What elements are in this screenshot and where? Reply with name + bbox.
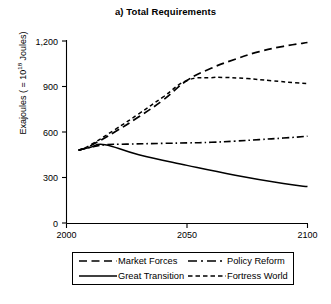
- y-tick-label-0: 0: [53, 219, 58, 229]
- legend: Market Forces Policy Reform Great Transi…: [72, 252, 294, 285]
- legend-row: Great Transition Fortress World: [73, 268, 295, 284]
- y-tick-label-900: 900: [43, 82, 58, 92]
- legend-label-policy-reform: Policy Reform: [227, 256, 285, 266]
- y-tick-label-600: 600: [43, 128, 58, 138]
- legend-label-great-transition: Great Transition: [118, 271, 184, 281]
- legend-row: Market Forces Policy Reform: [73, 253, 295, 269]
- legend-item-market-forces[interactable]: Market Forces: [73, 253, 185, 269]
- legend-label-market-forces: Market Forces: [118, 256, 177, 266]
- legend-item-fortress-world[interactable]: Fortress World: [185, 268, 295, 284]
- series-line-great-transition: [79, 144, 308, 186]
- legend-swatch-solid: [78, 271, 118, 281]
- legend-swatch-dash-dot: [187, 256, 227, 266]
- legend-swatch-long-dash: [78, 256, 118, 266]
- y-axis-ticks: [62, 41, 67, 223]
- x-axis-tick-labels: 2000 2050 2100: [56, 230, 317, 240]
- legend-item-great-transition[interactable]: Great Transition: [73, 268, 185, 284]
- legend-label-fortress-world: Fortress World: [227, 271, 288, 281]
- y-tick-label-1200: 1,200: [35, 37, 58, 47]
- legend-item-policy-reform[interactable]: Policy Reform: [185, 253, 295, 269]
- series-line-market-forces: [79, 43, 308, 151]
- legend-swatch-short-dash: [187, 271, 227, 281]
- x-tick-label-2050: 2050: [177, 230, 197, 240]
- y-tick-label-300: 300: [43, 173, 58, 183]
- x-tick-label-2100: 2100: [297, 230, 317, 240]
- plot-area: 1,200 900 600 300 0 2000 2050 2100: [0, 0, 331, 250]
- x-axis-ticks: [67, 224, 308, 229]
- figure-container: a) Total Requirements Exajoules ( = 1018…: [0, 0, 331, 304]
- y-axis-tick-labels: 1,200 900 600 300 0: [35, 37, 58, 229]
- series-line-policy-reform: [79, 136, 308, 150]
- x-tick-label-2000: 2000: [56, 230, 76, 240]
